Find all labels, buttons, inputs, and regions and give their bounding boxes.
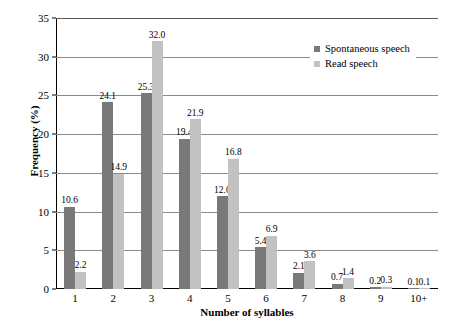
x-tick-label: 10+ bbox=[400, 292, 438, 304]
bar[interactable]: 16.8 bbox=[228, 159, 239, 289]
bar[interactable]: 0.1 bbox=[419, 288, 430, 289]
bar[interactable]: 5.4 bbox=[255, 247, 266, 289]
y-axis-title: Frequency (%) bbox=[28, 61, 40, 221]
x-tick-label: 5 bbox=[209, 292, 247, 304]
x-axis-title: Number of syllables bbox=[56, 306, 438, 318]
bar-value-label: 16.8 bbox=[225, 148, 242, 158]
bar-value-label: 2.1 bbox=[293, 262, 305, 272]
x-axis-ticks: 12345678910+ bbox=[56, 292, 438, 304]
bar-group: 24.114.9 bbox=[94, 18, 132, 289]
bar[interactable]: 19.4 bbox=[179, 139, 190, 289]
bar-value-label: 32.0 bbox=[149, 31, 166, 41]
chart-figure: Frequency (%) 05101520253035 10.62.224.1… bbox=[0, 0, 454, 324]
bar[interactable]: 3.6 bbox=[304, 261, 315, 289]
bar-value-label: 0.1 bbox=[418, 278, 430, 288]
bar[interactable]: 0.3 bbox=[381, 287, 392, 289]
y-tick-label: 10 bbox=[38, 206, 49, 218]
chart-legend: Spontaneous speechRead speech bbox=[310, 38, 416, 74]
legend-swatch-icon bbox=[314, 61, 320, 67]
bar-group: 25.332.0 bbox=[132, 18, 170, 289]
bar-group: 12.016.8 bbox=[209, 18, 247, 289]
legend-label: Read speech bbox=[325, 58, 378, 69]
bar-value-label: 0.3 bbox=[380, 276, 392, 286]
bar-value-label: 14.9 bbox=[110, 163, 127, 173]
x-tick-label: 4 bbox=[171, 292, 209, 304]
plot-area: 05101520253035 10.62.224.114.925.332.019… bbox=[56, 18, 438, 289]
legend-item[interactable]: Read speech bbox=[314, 56, 410, 71]
bar[interactable]: 14.9 bbox=[113, 174, 124, 289]
y-tick-label: 5 bbox=[44, 244, 50, 256]
bar[interactable]: 10.6 bbox=[64, 207, 75, 289]
bar[interactable]: 24.1 bbox=[102, 102, 113, 289]
x-tick-label: 1 bbox=[56, 292, 94, 304]
x-tick-label: 9 bbox=[362, 292, 400, 304]
bar[interactable]: 0.7 bbox=[332, 284, 343, 289]
bar[interactable]: 2.2 bbox=[75, 272, 86, 289]
bar-value-label: 3.6 bbox=[304, 251, 316, 261]
legend-item[interactable]: Spontaneous speech bbox=[314, 41, 410, 56]
bar[interactable]: 6.9 bbox=[266, 236, 277, 289]
bar[interactable]: 0.1 bbox=[408, 288, 419, 289]
x-tick-label: 7 bbox=[285, 292, 323, 304]
bar-value-label: 5.4 bbox=[255, 237, 267, 247]
bar-group: 19.421.9 bbox=[171, 18, 209, 289]
y-tick-label: 0 bbox=[44, 283, 50, 295]
x-tick-label: 6 bbox=[247, 292, 285, 304]
x-tick-label: 3 bbox=[132, 292, 170, 304]
bar-value-label: 21.9 bbox=[187, 109, 204, 119]
bar[interactable]: 25.3 bbox=[141, 93, 152, 289]
bar-value-label: 10.6 bbox=[61, 196, 78, 206]
y-tick-label: 30 bbox=[38, 51, 49, 63]
bar-group: 5.46.9 bbox=[247, 18, 285, 289]
bar[interactable]: 12.0 bbox=[217, 196, 228, 289]
legend-label: Spontaneous speech bbox=[325, 43, 410, 54]
y-tick-label: 25 bbox=[38, 89, 49, 101]
bar-value-label: 2.2 bbox=[75, 261, 87, 271]
bar-value-label: 6.9 bbox=[266, 225, 278, 235]
bar[interactable]: 2.1 bbox=[293, 273, 304, 289]
bar[interactable]: 21.9 bbox=[190, 119, 201, 289]
legend-swatch-icon bbox=[314, 46, 320, 52]
bar[interactable]: 1.4 bbox=[343, 278, 354, 289]
bar-value-label: 24.1 bbox=[99, 92, 116, 102]
y-tick-label: 35 bbox=[38, 12, 49, 24]
bar[interactable]: 0.2 bbox=[370, 287, 381, 289]
bar-group: 10.62.2 bbox=[56, 18, 94, 289]
x-tick-label: 8 bbox=[323, 292, 361, 304]
y-tick-label: 15 bbox=[38, 167, 49, 179]
y-tick-label: 20 bbox=[38, 128, 49, 140]
bar[interactable]: 32.0 bbox=[152, 41, 163, 289]
bar-value-label: 1.4 bbox=[342, 268, 354, 278]
x-tick-label: 2 bbox=[94, 292, 132, 304]
